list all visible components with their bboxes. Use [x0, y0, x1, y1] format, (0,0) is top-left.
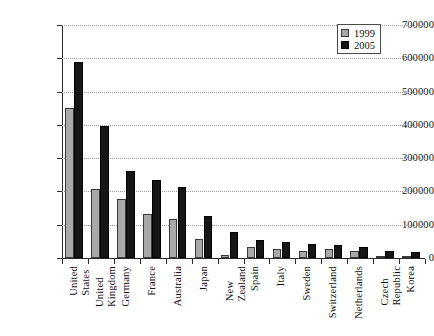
x-axis-tick — [140, 259, 141, 264]
x-axis-category-label: Japan — [198, 266, 210, 291]
x-axis-tick — [425, 259, 426, 264]
x-axis-tick — [166, 259, 167, 264]
bar-spain-2005 — [256, 240, 265, 258]
x-axis-category-label: France — [146, 266, 158, 296]
x-axis-category-label: Spain — [249, 266, 261, 291]
x-axis-tick — [114, 259, 115, 264]
bar-czech-republic-1999 — [376, 256, 385, 258]
bar-germany-2005 — [126, 171, 135, 258]
bar-group — [65, 25, 83, 258]
x-axis-tick — [269, 259, 270, 264]
x-axis-tick — [192, 259, 193, 264]
bar-group — [169, 25, 187, 258]
plot-area — [62, 25, 425, 258]
bar-group — [299, 25, 317, 258]
bar-group — [195, 25, 213, 258]
x-axis-tick — [373, 259, 374, 264]
bar-japan-1999 — [195, 239, 204, 258]
legend-swatch-icon-2005 — [341, 41, 349, 49]
bar-italy-2005 — [282, 242, 291, 258]
bar-czech-republic-2005 — [385, 251, 394, 258]
bar-france-2005 — [152, 180, 161, 258]
x-axis-category-label: Germany — [120, 266, 132, 306]
x-axis-category-label: Korea — [405, 266, 417, 293]
x-axis-tick — [218, 259, 219, 264]
bar-netherlands-2005 — [359, 247, 368, 258]
bar-switzerland-1999 — [325, 249, 334, 258]
legend-entry-1999: 1999 — [341, 27, 375, 39]
bar-italy-1999 — [273, 249, 282, 258]
x-axis-category-label: Sweden — [301, 266, 313, 300]
bar-group — [91, 25, 109, 258]
bar-united-states-1999 — [65, 108, 74, 258]
bar-new-zealand-2005 — [230, 232, 239, 258]
x-axis-category-label: Switzerland — [327, 266, 339, 318]
bar-korea-1999 — [402, 256, 411, 258]
bar-australia-1999 — [169, 219, 178, 258]
x-axis-tick — [347, 259, 348, 264]
bar-group — [247, 25, 265, 258]
bar-korea-2005 — [411, 252, 420, 258]
bar-united-states-2005 — [74, 62, 83, 258]
x-axis-category-label: United States — [68, 266, 91, 296]
x-axis-tick — [244, 259, 245, 264]
bar-group — [376, 25, 394, 258]
x-axis-category-label: Italy — [275, 266, 287, 286]
bar-germany-1999 — [117, 199, 126, 258]
bar-netherlands-1999 — [350, 251, 359, 258]
x-axis-category-label: Australia — [172, 266, 184, 306]
x-axis-tick — [399, 259, 400, 264]
legend-swatch-icon-1999 — [341, 29, 349, 37]
x-axis-category-label: United Kingdom — [94, 266, 117, 307]
bar-australia-2005 — [178, 187, 187, 258]
x-axis-category-label: Czech Republic — [379, 266, 402, 306]
bar-group — [325, 25, 343, 258]
legend-label-2005: 2005 — [354, 40, 375, 51]
bar-group — [402, 25, 420, 258]
legend-label-1999: 1999 — [354, 28, 375, 39]
bar-group — [117, 25, 135, 258]
bar-chart: 0100000200000300000400000500000600000700… — [0, 0, 434, 336]
bar-sweden-1999 — [299, 251, 308, 258]
bar-france-1999 — [143, 214, 152, 258]
legend-entry-2005: 2005 — [341, 39, 375, 51]
x-axis-tick — [88, 259, 89, 264]
chart-legend: 1999 2005 — [337, 24, 381, 54]
bar-group — [350, 25, 368, 258]
bar-spain-1999 — [247, 247, 256, 258]
bar-new-zealand-1999 — [221, 255, 230, 258]
bar-group — [143, 25, 161, 258]
x-axis-tick — [321, 259, 322, 264]
x-axis-tick — [295, 259, 296, 264]
bar-group — [221, 25, 239, 258]
bar-united-kingdom-1999 — [91, 189, 100, 258]
x-axis-tick — [62, 259, 63, 264]
x-axis-category-label: Netherlands — [353, 266, 365, 319]
bar-japan-2005 — [204, 216, 213, 258]
bar-united-kingdom-2005 — [100, 126, 109, 258]
bar-group — [273, 25, 291, 258]
x-axis-category-label: New Zealand — [224, 266, 247, 301]
bar-switzerland-2005 — [334, 245, 343, 258]
bar-sweden-2005 — [308, 244, 317, 258]
